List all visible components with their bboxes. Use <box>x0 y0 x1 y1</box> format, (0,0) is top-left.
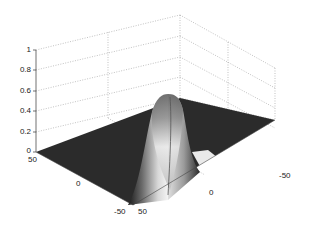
z-tick-0.6: 0.6 <box>20 86 32 95</box>
z-axis <box>33 50 36 152</box>
z-tick-0.4: 0.4 <box>20 106 32 115</box>
left-axis-tick-0: 0 <box>76 179 81 188</box>
right-axis-tick-50: 50 <box>138 207 147 216</box>
right-axis-tick-neg50: -50 <box>279 171 291 180</box>
z-tick-labels: 0 0.2 0.4 0.6 0.8 1 <box>20 45 32 155</box>
right-axis-tick-0: 0 <box>209 188 214 197</box>
surface-plot: 0 0.2 0.4 0.6 0.8 1 50 0 -50 50 0 -50 <box>0 0 309 225</box>
z-tick-0.2: 0.2 <box>20 127 32 136</box>
z-tick-1: 1 <box>27 45 32 54</box>
left-axis-tick-50: 50 <box>28 155 37 164</box>
surface-floor-light <box>192 150 227 170</box>
z-tick-0: 0 <box>27 146 32 155</box>
z-tick-0.8: 0.8 <box>20 65 32 74</box>
left-axis-tick-neg50: -50 <box>114 207 126 216</box>
